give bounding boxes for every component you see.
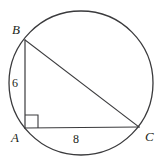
right-angle-marker: [25, 115, 38, 128]
vertex-label-a: A: [11, 131, 19, 144]
vertex-label-c: C: [145, 130, 154, 143]
vertex-label-b: B: [12, 23, 20, 36]
segment-ac: [25, 127, 139, 128]
segment-bc: [25, 40, 139, 127]
side-length-ac: 8: [73, 133, 79, 145]
geometry-canvas: [0, 0, 161, 166]
side-length-ab: 6: [12, 77, 18, 89]
geometry-figure: B A C 6 8: [0, 0, 161, 166]
